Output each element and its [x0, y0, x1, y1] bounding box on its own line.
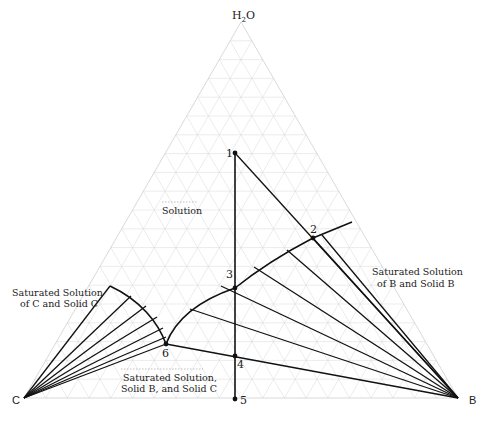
- point-5: [233, 397, 238, 402]
- point-5-label: 5: [240, 394, 247, 407]
- vertex-b-label: B: [469, 394, 476, 406]
- region-three-phase-label-1: Saturated Solution,: [123, 372, 217, 383]
- vertex-h2o-label: H2O: [232, 9, 255, 24]
- region-sat-b-label-1: Saturated Solution: [372, 266, 463, 277]
- region-three-phase-label-2: Solid B, and Solid C: [121, 383, 217, 394]
- point-1-label: 1: [226, 147, 233, 160]
- point-6-label: 6: [162, 347, 169, 360]
- region-sat-b-label-2: of B and Solid B: [377, 278, 455, 289]
- region-solution-label: Solution: [162, 205, 202, 216]
- point-6: [164, 342, 169, 347]
- point-3: [233, 286, 238, 291]
- b-solubility-curve: [166, 222, 352, 344]
- point-2-label: 2: [310, 223, 317, 236]
- triangular-grid: [35, 41, 447, 398]
- point-3-label: 3: [226, 268, 233, 281]
- ternary-phase-diagram: 1 2 3 4 5 6 H2O C B Solution Saturated S…: [0, 0, 489, 421]
- point-4-label: 4: [237, 358, 244, 371]
- region-sat-c-label-1: Saturated Solution: [12, 287, 103, 298]
- point-1: [233, 151, 238, 156]
- point-2: [311, 236, 316, 241]
- vertex-c-label: C: [12, 394, 20, 406]
- region-sat-c-label-2: of C and Solid C: [20, 298, 98, 309]
